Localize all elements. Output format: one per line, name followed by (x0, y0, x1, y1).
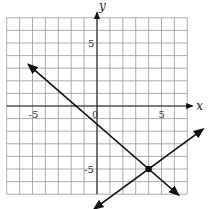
x-axis-label: x (196, 99, 203, 113)
x-tick-label: -5 (29, 109, 39, 120)
y-axis-label: y (98, 0, 106, 13)
points (145, 166, 151, 172)
y-tick-label: -5 (84, 164, 94, 175)
x-tick-label: 0 (92, 109, 98, 120)
coordinate-plane: x y -505 5-5 (0, 0, 211, 209)
x-tick-label: 5 (159, 109, 165, 120)
series-line-decreasing (29, 65, 179, 195)
y-tick-label: 5 (88, 38, 94, 49)
series-lines (29, 65, 203, 209)
point-intersection (145, 166, 151, 172)
